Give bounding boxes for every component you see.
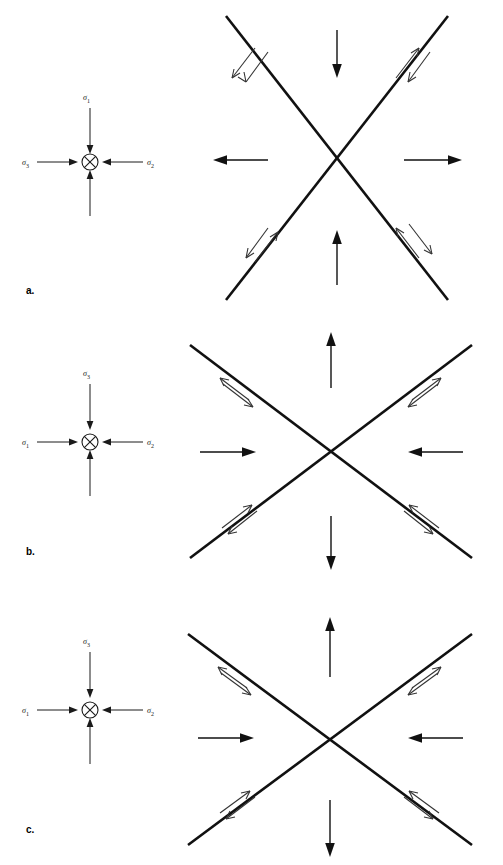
stress-axis-right-b: σ2 — [102, 438, 154, 449]
sigma-label-right-c: σ2 — [147, 706, 154, 717]
stress-symbol-b: σ3 σ1 σ2 — [22, 369, 154, 496]
stress-symbol-a: σ1 σ3 σ2 — [22, 93, 154, 216]
stress-axis-bottom-c — [87, 718, 94, 764]
sigma-label-top-c: σ3 — [83, 637, 90, 648]
panel-c: c. σ3 σ1 σ2 — [0, 595, 503, 865]
bulk-arrow-top-b — [326, 332, 336, 388]
shear-pair-lower-left-c — [220, 791, 255, 819]
bulk-arrow-left-b — [200, 447, 256, 457]
bulk-arrow-left-c — [198, 733, 254, 743]
panel-b: b. σ3 σ1 σ2 — [0, 320, 503, 595]
sigma-label-top-a: σ1 — [83, 93, 90, 104]
bulk-arrow-bottom-b — [326, 516, 336, 570]
shear-pair-upper-left-c — [218, 667, 251, 695]
stress-symbol-c: σ3 σ1 σ2 — [22, 637, 154, 764]
stress-axis-top-c: σ3 — [83, 637, 93, 698]
bulk-arrow-bottom-c — [325, 800, 335, 857]
stress-axis-left-c: σ1 — [22, 706, 78, 717]
circle-x-icon-b — [82, 434, 98, 450]
shear-pair-lower-right-c — [404, 791, 439, 819]
fault-diagram-c — [188, 617, 472, 857]
sigma-label-right-b: σ2 — [147, 438, 154, 449]
bulk-arrow-right-b — [408, 447, 463, 457]
shear-pair-upper-left-b — [220, 378, 253, 407]
stress-axis-bottom-a — [87, 170, 94, 216]
bulk-arrow-bottom-a — [332, 230, 342, 285]
panel-a: a. σ1 σ3 σ2 — [0, 0, 503, 320]
shear-pair-upper-left-a — [232, 48, 268, 82]
stress-axis-bottom-b — [87, 450, 94, 496]
circle-x-icon-a — [82, 154, 98, 170]
shear-pair-upper-right-c — [408, 667, 441, 695]
panel-a-graphics: σ1 σ3 σ2 — [0, 0, 503, 320]
sigma-label-top-b: σ3 — [83, 369, 90, 380]
sigma-label-left-a: σ3 — [22, 158, 29, 169]
sigma-label-left-b: σ1 — [22, 438, 29, 449]
stress-axis-right-c: σ2 — [102, 706, 154, 717]
stress-axis-left-a: σ3 — [22, 158, 78, 169]
panel-c-graphics: σ3 σ1 σ2 — [0, 595, 503, 865]
bulk-arrow-top-a — [332, 30, 342, 78]
figure-root: a. σ1 σ3 σ2 — [0, 0, 503, 865]
bulk-arrow-top-c — [325, 617, 335, 677]
bulk-arrow-left-a — [213, 155, 268, 165]
shear-pair-lower-left-a — [246, 228, 278, 262]
fault-diagram-a — [213, 16, 462, 300]
stress-axis-left-b: σ1 — [22, 438, 78, 449]
circle-x-icon-c — [82, 702, 98, 718]
bulk-arrow-right-a — [404, 155, 462, 165]
panel-b-graphics: σ3 σ1 σ2 — [0, 320, 503, 595]
stress-axis-top-a: σ1 — [83, 93, 93, 154]
stress-axis-right-a: σ2 — [102, 158, 154, 169]
sigma-label-left-c: σ1 — [22, 706, 29, 717]
fault-diagram-b — [190, 332, 472, 570]
stress-axis-top-b: σ3 — [83, 369, 93, 430]
sigma-label-right-a: σ2 — [147, 158, 154, 169]
bulk-arrow-right-c — [408, 733, 463, 743]
